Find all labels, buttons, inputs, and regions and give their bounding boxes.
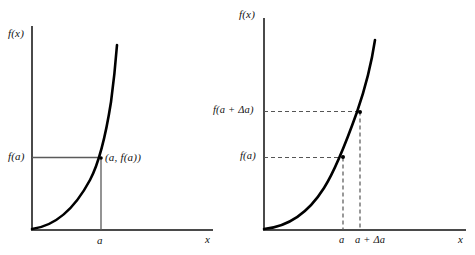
left-x-tick-label-a: a <box>97 235 103 246</box>
right-function-curve <box>264 40 375 229</box>
left-x-axis-label: x <box>205 234 210 245</box>
figure-root: f(x) f(a) a (a, f(a)) x f(x) <box>0 0 475 255</box>
left-plot: f(x) f(a) a (a, f(a)) x <box>0 0 235 255</box>
left-plot-canvas <box>0 0 235 255</box>
right-point-marker-lower <box>341 155 345 159</box>
left-function-curve <box>32 45 117 229</box>
right-y-axis-label: f(x) <box>239 9 255 20</box>
left-y-axis-label: f(x) <box>8 28 24 39</box>
left-y-tick-label-fa: f(a) <box>8 151 25 162</box>
right-x-axis-label: x <box>458 234 463 245</box>
right-point-marker-upper <box>358 110 362 114</box>
right-plot: f(x) f(a + Δa) f(a) a a + Δa x <box>235 0 475 255</box>
right-y-tick-label-fa-plus-da: f(a + Δa) <box>213 105 254 116</box>
left-point-marker <box>99 156 103 160</box>
left-point-label: (a, f(a)) <box>105 152 141 163</box>
right-x-tick-label-a-plus-da: a + Δa <box>355 235 385 246</box>
right-y-tick-label-fa: f(a) <box>240 151 256 162</box>
right-x-tick-label-a: a <box>339 235 344 246</box>
right-plot-canvas <box>235 0 475 255</box>
